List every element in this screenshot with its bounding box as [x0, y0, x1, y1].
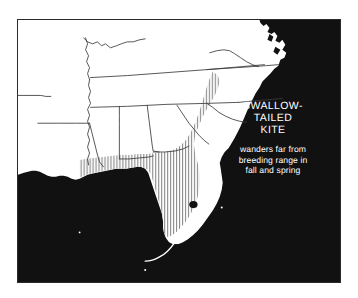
map-frame: SWALLOW- TAILED KITE wanders far from br…	[17, 19, 341, 283]
map-figure: SWALLOW- TAILED KITE wanders far from br…	[0, 0, 358, 298]
lake-okeechobee	[189, 201, 197, 208]
offshore-dot-c	[79, 231, 81, 233]
map-canvas	[18, 20, 340, 282]
offshore-dot-a	[221, 207, 223, 209]
offshore-dot-b	[144, 269, 146, 271]
